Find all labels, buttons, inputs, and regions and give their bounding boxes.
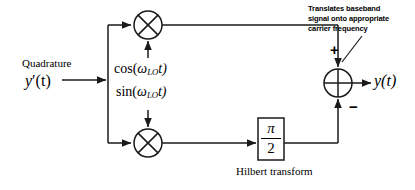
annotation-leader-line: [342, 36, 362, 62]
sin-omega: ω: [137, 84, 147, 99]
hilbert-numerator: π: [259, 120, 283, 137]
hilbert-transform-caption: Hilbert transform: [236, 166, 313, 178]
summer-plus-sign: +: [330, 42, 339, 58]
annotation-text: Translates baseband signal onto appropri…: [308, 4, 389, 34]
input-caption-quadrature: Quadrature: [22, 58, 71, 70]
hilbert-denominator: 2: [259, 140, 283, 157]
sin-subscript: LO: [147, 90, 158, 100]
input-signal-argument: ′(t): [32, 72, 51, 89]
cos-suffix: t): [158, 61, 167, 76]
summer-minus-sign: −: [349, 99, 358, 115]
cos-omega: ω: [137, 61, 147, 76]
annotation-line-1: Translates baseband: [308, 4, 389, 14]
hilbert-fraction: π 2: [259, 120, 283, 158]
sin-prefix: sin(: [116, 84, 137, 99]
output-signal-label: y(t): [374, 73, 396, 90]
block-diagram-figure: Quadrature y′(t) cos(ωLOt) sin(ωLOt) Tra…: [0, 0, 415, 190]
sin-suffix: t): [158, 84, 167, 99]
cos-subscript: LO: [147, 67, 158, 77]
annotation-line-3: carrier frequency: [308, 24, 389, 34]
carrier-label-sine: sin(ωLOt): [116, 85, 167, 101]
fraction-bar: [261, 138, 281, 139]
annotation-line-2: signal onto appropriate: [308, 14, 389, 24]
output-signal-argument: (t): [381, 72, 396, 89]
input-signal-label: y′(t): [25, 73, 51, 90]
cos-prefix: cos(: [114, 61, 137, 76]
carrier-label-cosine: cos(ωLOt): [114, 62, 167, 78]
